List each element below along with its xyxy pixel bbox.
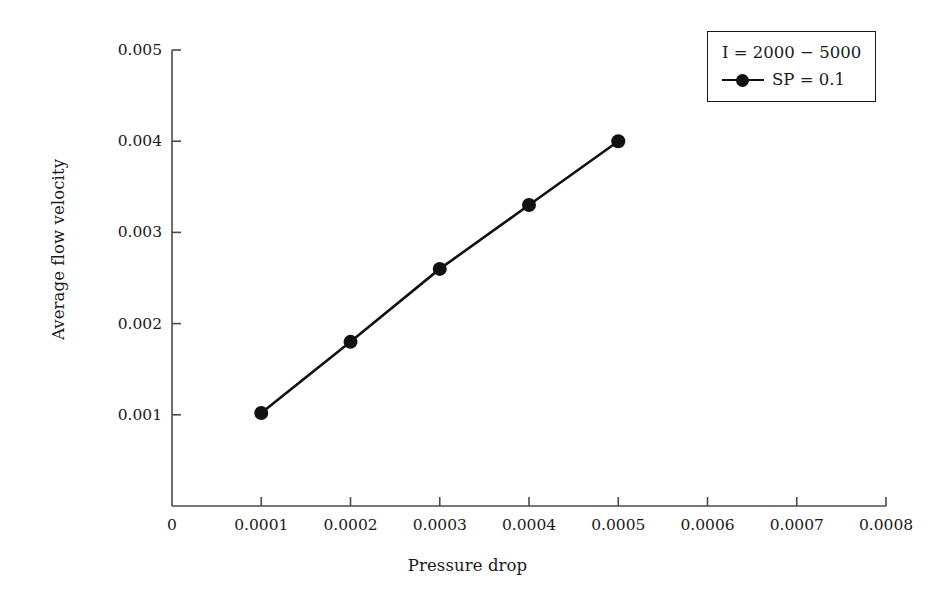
y-tick-label: 0.005 bbox=[118, 41, 162, 59]
legend-entry: SP = 0.1 bbox=[722, 66, 861, 93]
y-tick-label: 0.003 bbox=[118, 223, 162, 241]
y-tick-label: 0.004 bbox=[118, 132, 162, 150]
data-series-layer bbox=[254, 134, 625, 420]
data-point-marker bbox=[433, 262, 447, 276]
x-tick-label: 0.0008 bbox=[826, 516, 935, 534]
data-point-marker bbox=[254, 406, 268, 420]
legend-title-text: I = 2000 − 5000 bbox=[722, 43, 861, 62]
chart-figure: Average flow velocity Pressure drop 0.00… bbox=[0, 0, 935, 602]
y-axis-ticks bbox=[172, 50, 181, 415]
x-axis-ticks bbox=[261, 497, 886, 506]
y-tick-label: 0.001 bbox=[118, 406, 162, 424]
legend-title-row: I = 2000 − 5000 bbox=[722, 39, 861, 66]
data-point-marker bbox=[611, 134, 625, 148]
series-line bbox=[261, 141, 618, 413]
y-tick-label: 0.002 bbox=[118, 315, 162, 333]
legend-line-marker-icon bbox=[722, 72, 764, 88]
axis-lines bbox=[172, 50, 886, 506]
data-point-marker bbox=[522, 198, 536, 212]
legend: I = 2000 − 5000 SP = 0.1 bbox=[707, 31, 876, 102]
data-point-marker bbox=[344, 335, 358, 349]
legend-entry-label: SP = 0.1 bbox=[772, 70, 845, 89]
